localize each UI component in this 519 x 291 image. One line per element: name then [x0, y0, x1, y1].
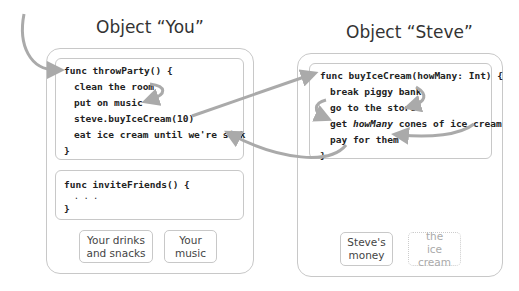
- item-label: Steve's money: [341, 236, 392, 262]
- item-label: Your music: [173, 234, 208, 260]
- code-line: eat ice cream until we're sick: [64, 127, 235, 143]
- code-line: . . .: [64, 191, 235, 203]
- code-line: func throwParty() {: [64, 63, 235, 79]
- code-line: put on music: [64, 95, 235, 111]
- invite-friends-function: func inviteFriends() { . . . }: [55, 170, 244, 220]
- code-line: break piggy bank: [320, 84, 483, 100]
- code-line: steve.buyIceCream(10): [64, 111, 235, 127]
- item-label: the ice cream: [417, 230, 452, 269]
- code-line: pay for them: [320, 132, 483, 148]
- code-line: }: [320, 148, 483, 164]
- object-you-title: Object “You”: [96, 17, 204, 37]
- code-line: clean the room: [64, 79, 235, 95]
- the-ice-cream: the ice cream: [408, 232, 461, 266]
- your-music: Your music: [164, 230, 217, 263]
- item-label: Your drinks and snacks: [80, 234, 152, 260]
- code-line: func inviteFriends() {: [64, 179, 235, 191]
- code-line: }: [64, 143, 235, 159]
- steves-money: Steve's money: [340, 232, 393, 266]
- object-steve-title: Object “Steve”: [346, 22, 473, 42]
- code-line: go to the store: [320, 100, 483, 116]
- throw-party-function: func throwParty() { clean the room put o…: [55, 58, 244, 160]
- buy-ice-cream-function: func buyIceCream(howMany: Int) { break p…: [309, 63, 492, 159]
- code-line: func buyIceCream(howMany: Int) {: [320, 68, 483, 84]
- your-drinks-and-snacks: Your drinks and snacks: [79, 230, 153, 263]
- code-line: }: [64, 203, 235, 215]
- code-line: get howMany cones of ice cream: [320, 116, 483, 132]
